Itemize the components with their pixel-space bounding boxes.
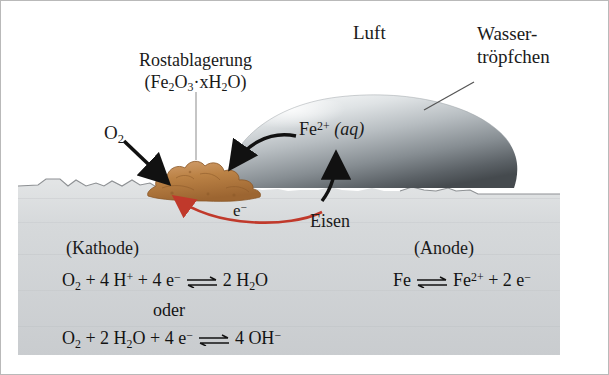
label-electron-symbol: e bbox=[233, 201, 241, 220]
label-cathode: (Kathode) bbox=[66, 238, 139, 259]
equation-anode-1: FeFe2+ + 2 e− bbox=[393, 270, 531, 291]
label-iron-ion-charge: 2+ bbox=[317, 119, 330, 133]
label-iron: Eisen bbox=[310, 211, 350, 232]
equation-cathode-1: O2 + 4 H+ + 4 e−2 H2O bbox=[62, 270, 268, 294]
label-electron-charge: − bbox=[241, 201, 247, 213]
formula-open: (Fe bbox=[145, 72, 169, 92]
equation-connector: oder bbox=[153, 300, 185, 321]
electron-flow-arrow bbox=[176, 198, 322, 223]
label-oxygen: O2 bbox=[104, 122, 124, 146]
corrosion-diagram: Luft Rostablagerung (Fe2O3·xH2O) Wasser-… bbox=[0, 0, 609, 375]
formula-o-close: O) bbox=[227, 72, 246, 92]
equation-cathode-2: O2 + 2 H2O + 4 e−4 OH− bbox=[62, 328, 281, 352]
label-anode: (Anode) bbox=[414, 238, 474, 259]
label-rust-formula: (Fe2O3·xH2O) bbox=[139, 72, 252, 94]
equilibrium-arrow-icon bbox=[415, 276, 449, 288]
label-iron-ion-state: (aq) bbox=[334, 119, 364, 139]
label-iron-ion: Fe2+ (aq) bbox=[299, 119, 364, 141]
droplet-leader-line bbox=[424, 82, 474, 110]
fe2-to-rust-arrow bbox=[232, 135, 296, 166]
fe2-up-arrow bbox=[322, 156, 336, 201]
label-water-droplet-line1: Wasser- bbox=[477, 22, 550, 45]
label-rust-deposit-text: Rostablagerung bbox=[139, 50, 252, 70]
equilibrium-arrow-icon bbox=[197, 334, 231, 346]
label-water-droplet: Wasser- tröpfchen bbox=[477, 22, 550, 68]
label-air: Luft bbox=[353, 22, 386, 44]
formula-o: O bbox=[175, 72, 188, 92]
label-water-droplet-line2: tröpfchen bbox=[477, 45, 550, 68]
equilibrium-arrow-icon bbox=[185, 276, 219, 288]
o2-arrow bbox=[124, 141, 166, 181]
label-rust-deposit: Rostablagerung (Fe2O3·xH2O) bbox=[139, 50, 252, 95]
label-oxygen-symbol: O bbox=[104, 122, 118, 143]
formula-h: H bbox=[208, 72, 221, 92]
label-oxygen-sub: 2 bbox=[118, 132, 124, 146]
label-electron: e− bbox=[233, 201, 247, 221]
label-iron-ion-symbol: Fe bbox=[299, 119, 317, 139]
